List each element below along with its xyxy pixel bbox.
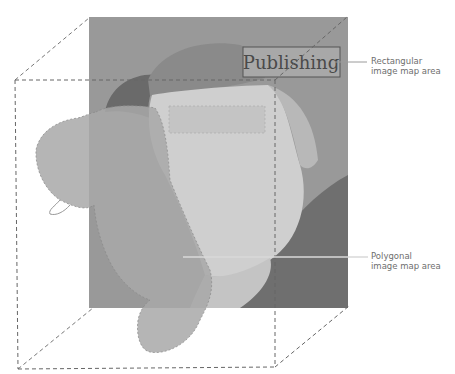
publishing-text: Publishing bbox=[243, 52, 339, 73]
eye-highlight-rect bbox=[169, 106, 265, 133]
callout-line-1: Rectangular bbox=[371, 56, 441, 66]
rectangular-callout-label: Rectangular image map area bbox=[371, 56, 441, 76]
polygonal-callout-label: Polygonal image map area bbox=[371, 251, 441, 271]
rectangular-map-area[interactable]: Publishing bbox=[243, 47, 340, 77]
callout-line-1: Polygonal bbox=[371, 251, 441, 261]
callout-line-2: image map area bbox=[371, 66, 441, 76]
image-map-diagram: Publishing Rectangular image map area Po… bbox=[0, 0, 455, 374]
callout-line-2: image map area bbox=[371, 261, 441, 271]
